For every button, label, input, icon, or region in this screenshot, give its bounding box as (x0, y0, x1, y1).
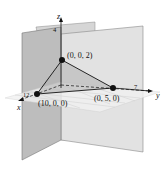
point-label-0-5-0: (0, 5, 0) (94, 94, 120, 103)
point-10-0-0 (34, 91, 40, 97)
point-0-5-0 (110, 85, 116, 91)
x-tick-label: 12 (23, 91, 30, 98)
point-label-0-0-2: (0, 0, 2) (67, 51, 93, 60)
point-0-0-2 (59, 57, 65, 63)
y-axis-label: y (155, 91, 160, 100)
point-label-10-0-0: (10, 0, 0) (38, 99, 68, 108)
3d-plane-diagram: z 4 y 7 x 12 (0, 0, 2) (10, 0, 0) (0, 5,… (0, 0, 165, 174)
x-axis-label: x (16, 103, 21, 112)
diagram-canvas: z 4 y 7 x 12 (0, 0, 2) (10, 0, 0) (0, 5,… (0, 0, 165, 174)
